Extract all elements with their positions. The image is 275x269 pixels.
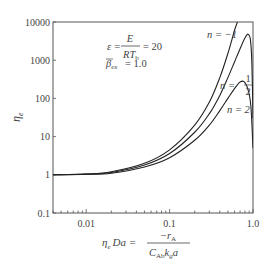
x-axis-ticks: 0.010.11.0 (53, 209, 259, 229)
y-axis-label: ηe (9, 112, 25, 122)
svg-text:2: 2 (245, 86, 250, 97)
eps-rhs: = 20 (143, 41, 162, 52)
x-tick-label: 0.01 (77, 218, 95, 229)
y-tick-label: 1000 (30, 55, 50, 66)
y-axis-ticks: 0.1110100100010000 (25, 17, 56, 219)
label-n-half: n = 1 2 (220, 73, 252, 97)
svg-text:n =: n = (220, 80, 235, 91)
curve-series-2 (53, 81, 253, 175)
eps-numerator: E (126, 33, 134, 44)
y-tick-label: 0.1 (38, 208, 51, 219)
beta-symbol: βex (105, 58, 118, 71)
chart-canvas: 0.1110100100010000 0.010.11.0 ηe ε = E R… (0, 0, 275, 269)
eps-lhs: ε = (107, 41, 121, 52)
svg-text:−rA: −rA (160, 230, 176, 243)
x-axis-label: ηeDa = −rA CAbkga (102, 230, 190, 260)
y-tick-label: 10 (40, 131, 50, 142)
y-tick-label: 100 (35, 93, 50, 104)
svg-text:CAbkga: CAbkga (149, 247, 178, 260)
beta-rhs: = 1.0 (125, 58, 147, 69)
svg-text:1: 1 (245, 73, 250, 84)
svg-text:ηeDa =: ηeDa = (102, 236, 136, 251)
label-n-neg1: n = −1 (207, 29, 237, 40)
curve-series-1 (53, 34, 253, 175)
y-tick-label: 1 (45, 169, 50, 180)
x-tick-label: 0.1 (163, 218, 176, 229)
annotation-beta: βex = 1.0 (105, 58, 147, 71)
y-tick-label: 10000 (25, 17, 50, 28)
x-tick-label: 1.0 (247, 218, 260, 229)
label-n-2: n = 2 (227, 104, 251, 115)
